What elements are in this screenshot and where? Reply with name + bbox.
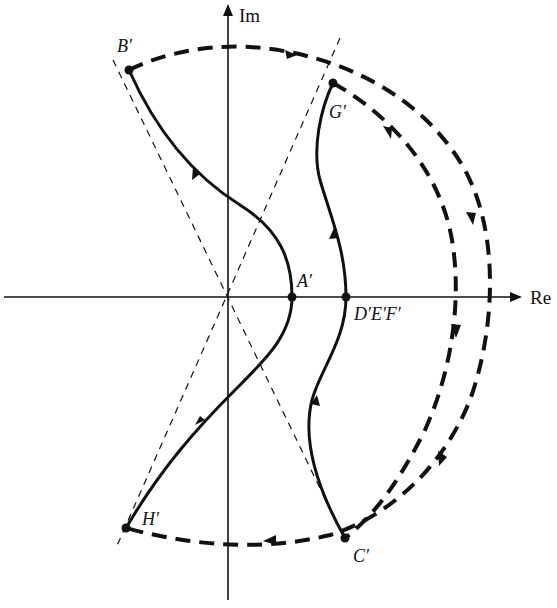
arrow-inner-upper-icon <box>383 126 392 139</box>
point-def-label: D′E′F′ <box>354 305 401 323</box>
solid-curve-right <box>309 83 346 538</box>
asymptote-lines <box>113 38 345 548</box>
axes <box>4 6 520 600</box>
imaginary-axis-label: Im <box>239 6 260 25</box>
asymptote-line-descending <box>113 60 345 540</box>
point-g-label: G′ <box>329 103 346 121</box>
solid-curve-left <box>126 70 292 528</box>
point-b-label: B′ <box>117 37 132 55</box>
arrow-outer-right-upper-icon <box>466 212 476 225</box>
point-def <box>342 293 351 302</box>
point-b <box>125 66 134 75</box>
outer-dashed-arc <box>126 47 490 545</box>
real-axis-label: Re <box>530 288 551 307</box>
point-c <box>341 534 350 543</box>
point-h-label: H′ <box>142 510 159 528</box>
point-c-label: C′ <box>353 547 369 565</box>
point-a-label: A′ <box>297 272 312 290</box>
point-h <box>122 524 131 533</box>
point-g <box>329 79 338 88</box>
arrow-bottom-left-icon <box>263 535 276 545</box>
nyquist-diagram <box>0 0 557 608</box>
point-a <box>288 293 297 302</box>
